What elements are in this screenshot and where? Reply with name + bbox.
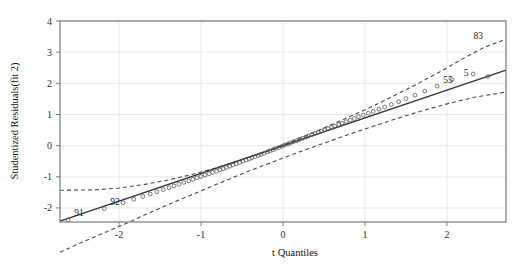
y-tick-label: -1 — [44, 171, 52, 182]
x-axis-title: t Quantiles — [272, 247, 318, 258]
chart-canvas: -2-1012 -2-101234 919255583 t Quantiles … — [0, 0, 529, 269]
plot-background — [0, 0, 529, 269]
x-tick-label: -1 — [197, 229, 205, 240]
y-tick-label: -2 — [44, 202, 52, 213]
outlier-label: 92 — [110, 197, 120, 207]
outlier-label: 91 — [74, 208, 84, 218]
qq-plot-figure: -2-1012 -2-101234 919255583 t Quantiles … — [0, 0, 529, 269]
y-tick-label: 4 — [47, 16, 52, 27]
x-tick-label: 0 — [281, 229, 286, 240]
y-axis-title: Studentized Residuals(fit 2) — [9, 62, 21, 180]
y-tick-label: 3 — [47, 47, 52, 58]
x-tick-label: 2 — [444, 229, 449, 240]
x-tick-label: 1 — [362, 229, 367, 240]
y-tick-label: 0 — [47, 140, 52, 151]
y-tick-label: 2 — [47, 78, 52, 89]
outlier-label: 83 — [473, 31, 483, 41]
outlier-label: 5 — [464, 68, 469, 78]
x-tick-label: -2 — [115, 229, 123, 240]
y-tick-label: 1 — [47, 109, 52, 120]
outlier-label: 55 — [443, 75, 453, 85]
